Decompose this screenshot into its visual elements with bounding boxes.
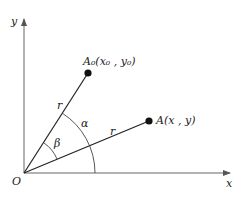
point-a0 [84, 69, 91, 76]
angle-alpha-arc [62, 113, 95, 173]
point-a0-label: A₀(x₀ , y₀) [83, 56, 136, 67]
rotation-diagram: y x O A₀(x₀ , y₀) A(x , y) r r α β [0, 0, 242, 198]
segment-o-a-label: r [110, 126, 115, 137]
x-axis-label: x [226, 178, 232, 189]
angle-beta-label: β [54, 138, 60, 149]
segment-o-a0 [24, 73, 88, 173]
diagram-canvas [0, 0, 242, 198]
point-a [145, 117, 152, 124]
angle-alpha-label: α [81, 118, 88, 129]
segment-o-a0-label: r [57, 100, 62, 111]
point-a-label: A(x , y) [156, 115, 195, 126]
origin-label: O [12, 176, 21, 187]
y-axis-label: y [11, 16, 17, 27]
